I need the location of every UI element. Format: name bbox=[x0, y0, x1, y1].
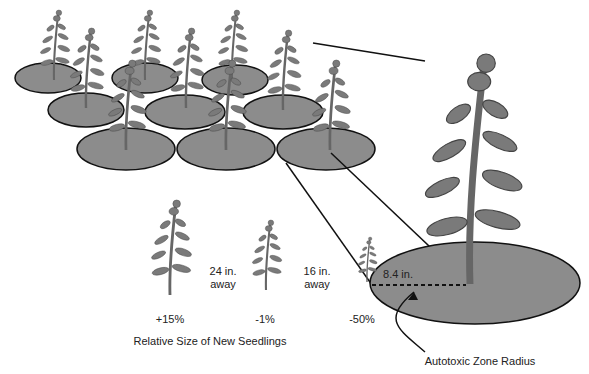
seedling-size-2: -1% bbox=[245, 313, 285, 326]
distance-unit: away bbox=[203, 278, 243, 291]
distance-unit: away bbox=[297, 278, 337, 291]
diagram-caption: Relative Size of New Seedlings bbox=[120, 335, 300, 348]
plant-field bbox=[15, 63, 375, 170]
seedling-size-3: -50% bbox=[342, 313, 382, 326]
distance-label-16: 16 in. away bbox=[297, 265, 337, 291]
autotoxicity-diagram: 24 in. away 16 in. away +15% -1% -50% Re… bbox=[0, 0, 589, 374]
distance-label-24: 24 in. away bbox=[203, 265, 243, 291]
seedling-size-1: +15% bbox=[150, 313, 190, 326]
distance-value: 16 in. bbox=[297, 265, 337, 278]
diagram-graphics bbox=[0, 0, 589, 374]
zone-label: Autotoxic Zone Radius bbox=[410, 355, 550, 368]
radius-label: 8.4 in. bbox=[378, 268, 418, 281]
autotoxic-zone bbox=[370, 242, 580, 324]
distance-value: 24 in. bbox=[203, 265, 243, 278]
